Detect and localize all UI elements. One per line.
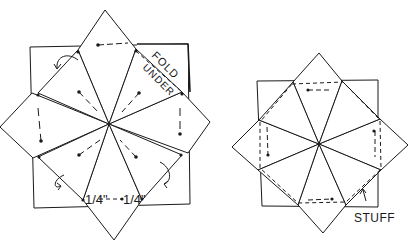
left-figure-fold-under: 1/4" 1/4" FOLD UNDER bbox=[0, 10, 210, 240]
stuff-label: STUFF bbox=[354, 211, 395, 225]
measure-left-label: 1/4" bbox=[85, 192, 108, 207]
quilt-diagram: 1/4" 1/4" FOLD UNDER STUFF bbox=[0, 0, 411, 250]
right-figure-stuff: STUFF bbox=[232, 53, 408, 233]
measure-right-label: 1/4" bbox=[123, 192, 146, 207]
